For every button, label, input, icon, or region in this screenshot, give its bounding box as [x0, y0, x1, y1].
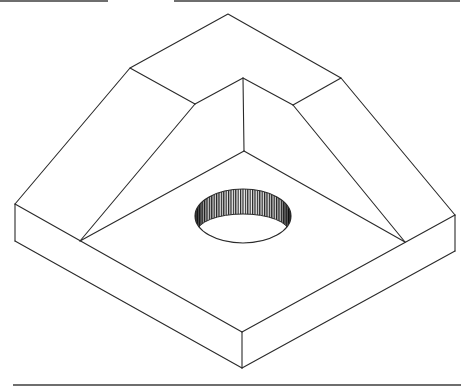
- outer-top-outline: [15, 14, 455, 215]
- through-hole: [195, 189, 291, 250]
- isometric-block-drawing: [0, 0, 472, 389]
